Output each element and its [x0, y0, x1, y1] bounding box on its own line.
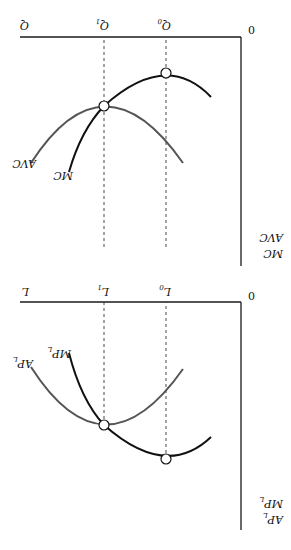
mp-ap-intersection: [99, 420, 109, 430]
tick-l1: L1: [97, 283, 110, 298]
rotated-figure: 0 L L0 L1 APL MPL MPL APL 0 Q Q0 Q1 MC: [12, 17, 284, 530]
y-label-mc: MC: [263, 247, 284, 260]
y-label-mp: MPL: [259, 495, 284, 510]
origin-label-cost: 0: [248, 23, 255, 36]
product-panel: 0 L L0 L1 APL MPL MPL APL: [13, 283, 284, 530]
mc-curve: [69, 76, 211, 172]
mc-min-point: [161, 68, 171, 78]
cost-panel: 0 Q Q0 Q1 MC AVC MC AVC: [12, 17, 284, 266]
origin-label-product: 0: [248, 289, 255, 302]
mc-avc-intersection: [99, 101, 109, 111]
curve-label-mp: MPL: [47, 345, 72, 360]
x-axis-label-l: L: [22, 285, 30, 298]
mp-max-point: [161, 454, 171, 464]
tick-l0: L0: [159, 283, 172, 298]
x-axis-label-q: Q: [20, 19, 29, 32]
ap-curve: [31, 367, 183, 425]
tick-q0: Q0: [157, 17, 171, 32]
mp-curve: [69, 353, 211, 456]
tick-q1: Q1: [96, 17, 110, 32]
cost-product-diagram: 0 L L0 L1 APL MPL MPL APL 0 Q Q0 Q1 MC: [0, 0, 291, 550]
avc-curve: [31, 107, 183, 164]
y-label-ap: APL: [263, 511, 284, 526]
curve-label-avc: AVC: [12, 157, 37, 170]
curve-label-ap: APL: [13, 355, 34, 370]
y-label-avc: AVC: [259, 231, 284, 244]
curve-label-mc: MC: [53, 169, 74, 182]
